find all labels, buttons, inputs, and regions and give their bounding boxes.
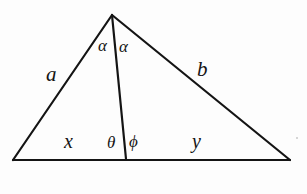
side-label-b: b xyxy=(197,59,208,80)
angle-label-phi: ϕ xyxy=(129,133,138,150)
triangle-outline xyxy=(13,15,290,160)
base-label-x: x xyxy=(64,131,73,151)
base-label-y: y xyxy=(192,131,201,151)
side-b-line xyxy=(112,15,290,160)
angle-label-alpha-right: α xyxy=(119,38,128,55)
triangle-diagram-svg xyxy=(0,0,307,194)
angle-label-alpha-left: α xyxy=(98,37,107,54)
scan-speck-artifact xyxy=(296,137,298,139)
side-label-a: a xyxy=(46,64,57,85)
diagram-canvas: a b x y α α θ ϕ xyxy=(0,0,307,194)
angle-label-theta: θ xyxy=(107,134,115,151)
